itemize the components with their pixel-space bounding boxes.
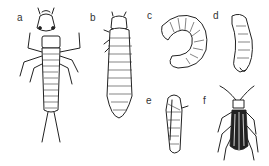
panel-c-grub-drawing	[162, 15, 207, 68]
figure-illustrations	[0, 0, 269, 166]
panel-label-a: a	[17, 13, 23, 23]
panel-label-b: b	[90, 13, 96, 23]
panel-label-c: c	[147, 11, 152, 21]
panel-label-d: d	[213, 11, 219, 21]
panel-label-e: e	[146, 96, 152, 106]
panel-label-f: f	[203, 96, 206, 106]
panel-a-larva-drawing	[20, 8, 80, 142]
panel-d-larva-drawing	[232, 14, 252, 72]
panel-f-beetle-drawing	[218, 86, 258, 160]
panel-b-larva-drawing	[104, 12, 132, 118]
panel-e-pupa-drawing	[166, 95, 188, 153]
